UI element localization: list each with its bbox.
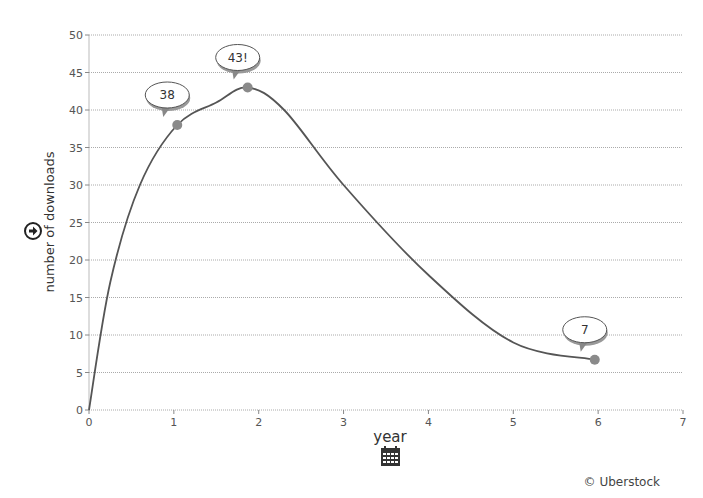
x-tick-label: 1: [170, 416, 177, 429]
x-axis-ticks: 01234567: [86, 410, 687, 429]
callout-bubble: 7: [563, 317, 608, 352]
data-point-marker: [243, 83, 253, 93]
y-tick-label: 5: [76, 367, 83, 380]
data-markers: [172, 83, 599, 365]
arrow-circle-right-icon: [25, 223, 41, 239]
y-tick-label: 35: [69, 142, 83, 155]
y-tick-label: 45: [69, 67, 83, 80]
x-tick-label: 3: [340, 416, 347, 429]
y-axis-ticks: 05101520253035404550: [69, 29, 89, 417]
callout-label: 43!: [228, 51, 248, 65]
y-tick-label: 40: [69, 104, 83, 117]
callout-label: 38: [160, 88, 175, 102]
x-tick-label: 0: [86, 416, 93, 429]
x-tick-label: 5: [510, 416, 517, 429]
callout-bubble: 38: [145, 82, 190, 117]
calendar-icon: [381, 446, 400, 466]
y-axis-title: number of downloads: [42, 151, 57, 292]
y-tick-label: 50: [69, 29, 83, 42]
callout-label: 7: [581, 323, 589, 337]
y-tick-label: 20: [69, 254, 83, 267]
callouts: 3843!7: [145, 45, 607, 352]
x-axis-title: year: [373, 428, 407, 446]
y-tick-label: 15: [69, 292, 83, 305]
callout-bubble: 43!: [216, 45, 261, 80]
data-point-marker: [590, 355, 600, 365]
data-point-marker: [172, 120, 182, 130]
y-tick-label: 0: [76, 404, 83, 417]
y-tick-label: 25: [69, 217, 83, 230]
credit-text: © Uberstock: [584, 475, 660, 489]
line-chart: 05101520253035404550 01234567 3843!7 num…: [0, 0, 703, 498]
downloads-line: [89, 87, 595, 410]
x-tick-label: 6: [595, 416, 602, 429]
x-tick-label: 7: [680, 416, 687, 429]
x-tick-label: 2: [255, 416, 262, 429]
y-tick-label: 30: [69, 179, 83, 192]
x-tick-label: 4: [425, 416, 432, 429]
y-tick-label: 10: [69, 329, 83, 342]
y-axis-title-group: number of downloads: [42, 151, 57, 292]
